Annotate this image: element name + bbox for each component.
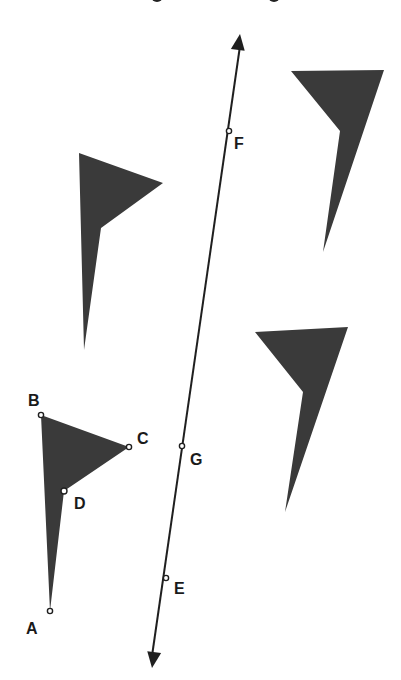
point-label-g: G (190, 452, 202, 468)
diagram-canvas (0, 0, 401, 680)
point-d-marker (61, 488, 67, 494)
shapes-group (41, 70, 384, 611)
point-label-e: E (174, 581, 185, 597)
arrowhead-up-icon (231, 34, 245, 51)
figure-ABCD-shape (41, 415, 129, 611)
point-c-marker (126, 444, 131, 449)
point-a-marker (47, 608, 52, 613)
point-g-marker (179, 443, 184, 448)
line-ef (152, 46, 240, 656)
point-label-f: F (234, 136, 244, 152)
figure-upper-left-shape (79, 153, 163, 350)
figure-lower-right-shape (255, 327, 348, 512)
arrowhead-down-icon (147, 651, 161, 668)
point-label-a: A (26, 621, 38, 637)
point-label-c: C (137, 431, 149, 447)
point-b-marker (38, 412, 43, 417)
point-f-marker (226, 128, 231, 133)
point-e-marker (163, 575, 168, 580)
figure-upper-right-shape (291, 70, 384, 252)
point-label-b: B (28, 393, 40, 409)
point-label-d: D (74, 496, 86, 512)
